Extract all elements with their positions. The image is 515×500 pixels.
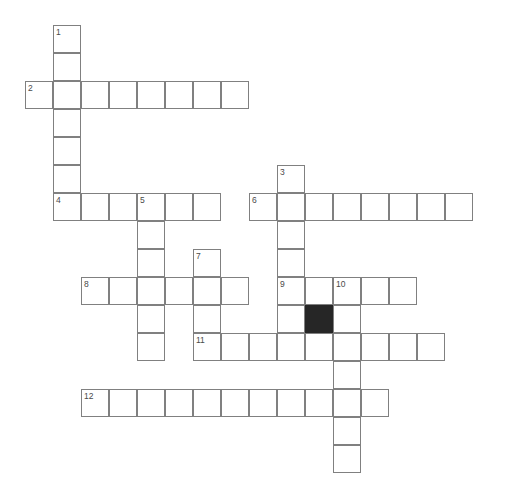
cell-number: 12 [84, 391, 93, 401]
grid-cell[interactable] [277, 305, 305, 333]
grid-cell[interactable] [81, 193, 109, 221]
cell-number: 9 [280, 279, 285, 289]
grid-cell[interactable] [193, 277, 221, 305]
cell-number: 11 [196, 335, 205, 345]
grid-cell[interactable] [305, 389, 333, 417]
grid-cell[interactable] [109, 81, 137, 109]
grid-cell[interactable] [305, 333, 333, 361]
grid-cell[interactable]: 2 [25, 81, 53, 109]
grid-cell[interactable] [333, 305, 361, 333]
grid-cell[interactable] [389, 333, 417, 361]
grid-cell[interactable] [165, 81, 193, 109]
grid-cell[interactable] [333, 193, 361, 221]
grid-cell[interactable] [137, 389, 165, 417]
grid-cell[interactable] [361, 333, 389, 361]
grid-cell[interactable] [333, 417, 361, 445]
grid-cell[interactable] [221, 81, 249, 109]
grid-cell[interactable] [361, 389, 389, 417]
grid-cell[interactable] [137, 305, 165, 333]
grid-cell[interactable] [389, 193, 417, 221]
cell-number: 6 [252, 195, 257, 205]
grid-cell[interactable] [445, 193, 473, 221]
grid-cell[interactable] [277, 221, 305, 249]
grid-cell[interactable] [305, 193, 333, 221]
grid-cell[interactable] [109, 193, 137, 221]
grid-cell[interactable] [193, 305, 221, 333]
grid-cell[interactable] [277, 249, 305, 277]
grid-cell[interactable]: 6 [249, 193, 277, 221]
crossword-grid[interactable]: 123456789101112 [0, 0, 515, 500]
grid-cell[interactable] [333, 445, 361, 473]
cell-number: 5 [140, 195, 145, 205]
grid-cell[interactable]: 11 [193, 333, 221, 361]
grid-cell[interactable]: 3 [277, 165, 305, 193]
grid-cell[interactable] [333, 389, 361, 417]
grid-cell[interactable] [249, 333, 277, 361]
grid-cell[interactable] [81, 81, 109, 109]
cell-number: 1 [56, 27, 61, 37]
grid-cell[interactable] [137, 249, 165, 277]
grid-cell[interactable]: 7 [193, 249, 221, 277]
grid-cell[interactable] [221, 277, 249, 305]
grid-cell[interactable] [193, 193, 221, 221]
grid-cell[interactable]: 12 [81, 389, 109, 417]
cell-number: 8 [84, 279, 89, 289]
grid-cell[interactable] [221, 333, 249, 361]
grid-cell[interactable]: 8 [81, 277, 109, 305]
grid-cell[interactable]: 9 [277, 277, 305, 305]
grid-cell[interactable]: 4 [53, 193, 81, 221]
grid-cell[interactable] [109, 277, 137, 305]
grid-cell[interactable] [53, 81, 81, 109]
cell-number: 4 [56, 195, 61, 205]
grid-cell[interactable] [137, 81, 165, 109]
grid-cell[interactable] [361, 277, 389, 305]
grid-cell[interactable] [277, 389, 305, 417]
grid-block-cell [305, 305, 333, 333]
grid-cell[interactable]: 5 [137, 193, 165, 221]
grid-cell[interactable] [333, 361, 361, 389]
grid-cell[interactable] [53, 53, 81, 81]
cell-number: 3 [280, 167, 285, 177]
grid-cell[interactable] [193, 81, 221, 109]
grid-cell[interactable] [305, 277, 333, 305]
grid-cell[interactable] [137, 277, 165, 305]
grid-cell[interactable] [53, 109, 81, 137]
grid-cell[interactable] [333, 333, 361, 361]
grid-cell[interactable] [137, 333, 165, 361]
grid-cell[interactable] [249, 389, 277, 417]
cell-number: 2 [28, 83, 33, 93]
grid-cell[interactable] [417, 333, 445, 361]
grid-cell[interactable] [221, 389, 249, 417]
grid-cell[interactable] [109, 389, 137, 417]
grid-cell[interactable] [53, 165, 81, 193]
grid-cell[interactable] [389, 277, 417, 305]
grid-cell[interactable] [165, 193, 193, 221]
cell-number: 10 [336, 279, 345, 289]
grid-cell[interactable] [361, 193, 389, 221]
grid-cell[interactable] [165, 389, 193, 417]
grid-cell[interactable] [53, 137, 81, 165]
grid-cell[interactable] [277, 333, 305, 361]
grid-cell[interactable]: 10 [333, 277, 361, 305]
grid-cell[interactable] [417, 193, 445, 221]
crossword-puzzle: 123456789101112 [0, 0, 515, 500]
grid-cell[interactable] [165, 277, 193, 305]
cell-number: 7 [196, 251, 201, 261]
grid-cell[interactable]: 1 [53, 25, 81, 53]
grid-cell[interactable] [193, 389, 221, 417]
grid-cell[interactable] [137, 221, 165, 249]
grid-cell[interactable] [277, 193, 305, 221]
